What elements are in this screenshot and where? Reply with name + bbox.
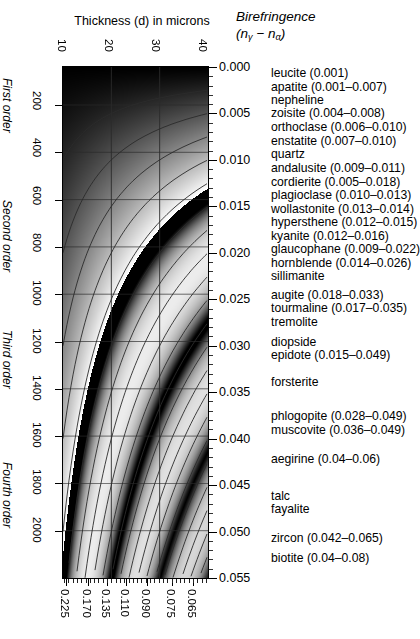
birefringence-tickmark	[209, 485, 217, 486]
thickness-tick-600: 600	[31, 186, 43, 205]
birefringence-minor-tickmark	[209, 178, 213, 179]
bottom-minor-tickmark	[189, 579, 190, 583]
retardation-line	[63, 184, 207, 532]
birefringence-minor-tickmark	[209, 494, 213, 495]
mineral-entry: forsterite	[271, 375, 318, 389]
birefringence-tick-0.040: 0.040	[219, 432, 250, 446]
birefringence-tick-0.055: 0.055	[219, 571, 250, 585]
bottom-minor-tickmark	[150, 579, 151, 583]
retardation-line	[63, 114, 207, 253]
thickness-tick-1800: 1800	[31, 469, 43, 495]
mineral-entry: enstatite (0.007–0.010)	[271, 134, 396, 148]
bottom-minor-tickmark	[133, 579, 134, 583]
bottom-minor-tickmark	[184, 579, 185, 583]
mineral-entry: orthoclase (0.006–0.010)	[271, 120, 407, 134]
top-tick-10: 10	[56, 39, 68, 52]
birefringence-minor-tickmark	[209, 104, 213, 105]
birefringence-minor-tickmark	[209, 225, 213, 226]
mineral-entry: zoisite (0.004–0.008)	[271, 106, 385, 120]
birefringence-minor-tickmark	[209, 234, 213, 235]
retardation-line	[121, 347, 207, 574]
birefringence-minor-tickmark	[209, 513, 213, 514]
birefringence-minor-tickmark	[209, 318, 213, 319]
bottom-minor-tickmark	[68, 579, 69, 583]
chart-title-birefringence: Birefringence (nγ − nα)	[236, 8, 376, 46]
retardation-line	[173, 487, 207, 577]
birefringence-minor-tickmark	[209, 541, 213, 542]
birefringence-minor-tickmark	[209, 327, 213, 328]
bottom-tickmark	[66, 579, 67, 586]
mineral-entry: plagioclase (0.010–0.013)	[271, 188, 411, 202]
birefringence-tickmark	[209, 346, 217, 347]
bottom-tickmark	[126, 579, 127, 586]
birefringence-minor-tickmark	[209, 169, 213, 170]
birefringence-minor-tickmark	[209, 216, 213, 217]
bottom-minor-tickmark	[94, 579, 95, 583]
birefringence-minor-tickmark	[209, 504, 213, 505]
thickness-tick-2000: 2000	[31, 517, 43, 543]
thickness-tickmark	[55, 105, 63, 106]
mineral-entry: cordierite (0.005–0.018)	[271, 175, 400, 189]
retardation-line	[95, 277, 207, 570]
mineral-entry: phlogopite (0.028–0.049)	[271, 409, 407, 423]
birefringence-tickmark	[209, 160, 217, 161]
mineral-entry: wollastonite (0.013–0.014)	[271, 202, 414, 216]
bottom-minor-tickmark	[129, 579, 130, 583]
birefringence-minor-tickmark	[209, 457, 213, 458]
thickness-tick-1200: 1200	[31, 328, 43, 354]
mineral-entry: tourmaline (0.017–0.035)	[271, 301, 407, 315]
thickness-tick-1000: 1000	[31, 280, 43, 306]
bottom-minor-tickmark	[180, 579, 181, 583]
thickness-tick-400: 400	[31, 138, 43, 157]
birefringence-minor-tickmark	[209, 569, 213, 570]
thickness-tickmark	[55, 389, 63, 390]
birefringence-minor-tickmark	[209, 374, 213, 375]
birefringence-minor-tickmark	[209, 401, 213, 402]
birefringence-tick-0.030: 0.030	[219, 339, 250, 353]
bottom-minor-tickmark	[64, 579, 65, 583]
thickness-tick-200: 200	[31, 91, 43, 110]
plot-border-left	[62, 66, 63, 579]
bottom-minor-tickmark	[159, 579, 160, 583]
birefringence-minor-tickmark	[209, 141, 213, 142]
bottom-minor-tickmark	[202, 579, 203, 583]
top-tick-30: 30	[150, 39, 162, 52]
bottom-minor-tickmark	[116, 579, 117, 583]
mineral-entry: tremolite	[271, 315, 318, 329]
bottom-minor-tickmark	[146, 579, 147, 583]
bottom-tickmark	[147, 579, 148, 586]
birefringence-tick-0.005: 0.005	[219, 106, 250, 120]
mineral-entry: glaucophane (0.009–0.022)	[271, 242, 420, 256]
mineral-entry: nepheline	[271, 93, 324, 107]
mineral-entry: talc	[271, 489, 290, 503]
retardation-line	[63, 137, 207, 346]
order-label-first-order: First order	[0, 78, 14, 133]
birefringence-minor-tickmark	[209, 244, 213, 245]
mineral-entry: epidote (0.015–0.049)	[271, 348, 390, 362]
thickness-tickmark	[55, 342, 63, 343]
birefringence-tickmark	[209, 439, 217, 440]
bottom-minor-tickmark	[73, 579, 74, 583]
birefringence-minor-tickmark	[209, 420, 213, 421]
mineral-entry: hypersthene (0.012–0.015)	[271, 215, 417, 229]
birefringence-minor-tickmark	[209, 383, 213, 384]
birefringence-minor-tickmark	[209, 429, 213, 430]
thickness-tickmark	[55, 436, 63, 437]
top-tick-20: 20	[103, 39, 115, 52]
birefringence-tick-0.015: 0.015	[219, 199, 250, 213]
birefringence-minor-tickmark	[209, 467, 213, 468]
retardation-line	[201, 557, 207, 573]
bottom-minor-tickmark	[120, 579, 121, 583]
birefringence-minor-tickmark	[209, 281, 213, 282]
bottom-minor-tickmark	[90, 579, 91, 583]
retardation-line	[147, 417, 207, 576]
order-label-second-order: Second order	[0, 200, 14, 272]
retardation-lines-overlay	[63, 67, 208, 578]
birefringence-tick-0.050: 0.050	[219, 525, 250, 539]
retardation-line	[77, 230, 207, 571]
birefringence-tickmark	[209, 67, 217, 68]
birefringence-tickmark	[209, 206, 217, 207]
bottom-minor-tickmark	[206, 579, 207, 583]
birefringence-minor-tickmark	[209, 95, 213, 96]
birefringence-tickmark	[209, 532, 217, 533]
